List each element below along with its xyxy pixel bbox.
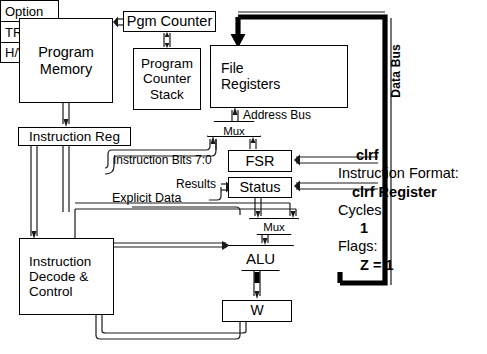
block-alu-mux: Mux: [249, 218, 299, 235]
instruction-decode-line2: Decode &: [29, 269, 88, 284]
instruction-decode-line3: Control: [29, 284, 73, 299]
block-program-memory: Program Memory: [19, 18, 113, 103]
instruction-datapath-diagram: Program Memory Pgm Counter Program Count…: [0, 0, 487, 354]
block-status-register: Status: [228, 177, 292, 198]
address-mux-label: Mux: [223, 125, 245, 137]
instruction-decode-line1: Instruction: [29, 254, 91, 269]
instruction-cycles-value: 1: [338, 219, 486, 237]
block-program-counter-stack: Program Counter Stack: [133, 48, 201, 110]
instruction-reg-label: Instruction Reg: [29, 129, 120, 144]
program-memory-line1: Program: [38, 44, 94, 60]
instruction-format-value: clrf Register: [338, 183, 486, 201]
block-w-register: W: [222, 300, 292, 322]
file-registers-line1: File: [221, 61, 244, 77]
pc-stack-line1: Program: [141, 56, 193, 71]
block-pgm-counter: Pgm Counter: [123, 11, 216, 32]
status-label: Status: [239, 179, 280, 195]
block-instruction-decode-control: Instruction Decode & Control: [19, 238, 114, 315]
block-file-registers: File Registers: [210, 45, 348, 108]
label-results: Results: [176, 177, 216, 191]
pgm-counter-label: Pgm Counter: [127, 13, 212, 29]
w-label: W: [250, 303, 263, 319]
pc-stack-line2: Counter: [143, 71, 191, 86]
label-address-bus: Address Bus: [243, 108, 311, 122]
fsr-label: FSR: [246, 153, 275, 169]
label-instruction-bits: Instruction Bits 7:0: [113, 153, 212, 167]
instruction-format-heading: Instruction Format:: [338, 164, 486, 182]
block-address-mux: Mux: [207, 121, 261, 137]
file-registers-line2: Registers: [221, 77, 280, 93]
program-memory-line2: Memory: [40, 61, 92, 77]
instruction-mnemonic: clrf: [338, 146, 486, 164]
block-instruction-register: Instruction Reg: [18, 127, 131, 146]
block-fsr-register: FSR: [228, 150, 292, 172]
label-data-bus: Data Bus: [389, 44, 403, 98]
alu-mux-label: Mux: [263, 221, 285, 233]
pc-stack-line3: Stack: [150, 87, 184, 102]
instruction-flags-heading: Flags:: [338, 237, 486, 255]
instruction-info-panel: clrf Instruction Format: clrf Register C…: [338, 146, 486, 274]
label-explicit-data: Explicit Data: [112, 191, 181, 205]
instruction-cycles-heading: Cycles:: [338, 201, 486, 219]
alu-label: ALU: [246, 250, 275, 267]
instruction-flags-value: Z = 1: [338, 256, 486, 274]
